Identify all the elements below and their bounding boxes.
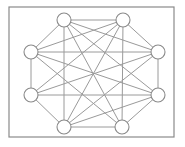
node-E	[24, 88, 38, 102]
node-H	[115, 120, 129, 134]
edge-C-H	[31, 52, 122, 127]
node-C	[24, 45, 38, 59]
node-A	[57, 13, 71, 27]
edge-B-E	[31, 20, 123, 95]
node-B	[116, 13, 130, 27]
graph-diagram	[0, 0, 185, 147]
edge-B-H	[122, 20, 123, 127]
edge-group	[31, 20, 158, 127]
node-F	[151, 88, 165, 102]
edge-D-G	[64, 52, 158, 127]
edge-A-F	[64, 20, 158, 95]
node-D	[151, 45, 165, 59]
node-G	[57, 120, 71, 134]
edge-F-G	[64, 95, 158, 127]
